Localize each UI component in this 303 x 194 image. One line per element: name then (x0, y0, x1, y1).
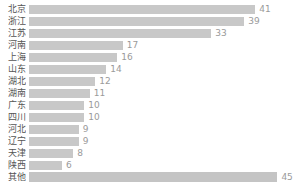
value-label: 9 (83, 124, 89, 134)
bar-track: 41 (29, 3, 303, 15)
chart-row: 浙江39 (0, 15, 303, 27)
category-label: 陕西 (0, 160, 26, 170)
bar-track: 11 (29, 87, 303, 99)
chart-row: 湖北12 (0, 75, 303, 87)
chart-row: 河北9 (0, 123, 303, 135)
bar-track: 17 (29, 39, 303, 51)
value-label: 6 (66, 160, 72, 170)
bar (29, 41, 123, 50)
bar-track: 12 (29, 75, 303, 87)
bar-track: 33 (29, 27, 303, 39)
chart-row: 河南17 (0, 39, 303, 51)
value-label: 11 (94, 88, 105, 98)
horizontal-bar-chart: 北京41浙江39江苏33河南17上海16山东14湖北12湖南11广东10四川10… (0, 0, 303, 194)
category-label: 其他 (0, 172, 26, 182)
value-label: 17 (127, 40, 138, 50)
chart-row: 北京41 (0, 3, 303, 15)
bar-track: 16 (29, 51, 303, 63)
bar (29, 101, 84, 110)
category-label: 天津 (0, 148, 26, 158)
chart-row: 辽宁9 (0, 135, 303, 147)
value-label: 41 (259, 4, 270, 14)
bar-track: 39 (29, 15, 303, 27)
category-label: 四川 (0, 112, 26, 122)
category-label: 河北 (0, 124, 26, 134)
value-label: 10 (88, 100, 99, 110)
category-label: 山东 (0, 64, 26, 74)
chart-row: 江苏33 (0, 27, 303, 39)
value-label: 9 (83, 136, 89, 146)
bar-track: 45 (29, 171, 303, 183)
value-label: 8 (77, 148, 83, 158)
chart-row: 陕西6 (0, 159, 303, 171)
category-label: 河南 (0, 40, 26, 50)
chart-row: 四川10 (0, 111, 303, 123)
chart-row: 其他45 (0, 171, 303, 183)
bar-track: 9 (29, 135, 303, 147)
value-label: 16 (121, 52, 132, 62)
chart-row: 广东10 (0, 99, 303, 111)
bar (29, 125, 79, 134)
value-label: 45 (281, 172, 292, 182)
category-label: 北京 (0, 4, 26, 14)
value-label: 12 (99, 76, 110, 86)
bar-track: 10 (29, 111, 303, 123)
bar (29, 29, 211, 38)
chart-row: 山东14 (0, 63, 303, 75)
bar (29, 5, 255, 14)
bar (29, 172, 277, 182)
bar (29, 137, 79, 146)
bar (29, 149, 73, 158)
chart-row: 天津8 (0, 147, 303, 159)
bar-track: 8 (29, 147, 303, 159)
bar-track: 14 (29, 63, 303, 75)
bar (29, 77, 95, 86)
bar (29, 65, 106, 74)
bar (29, 17, 244, 26)
category-label: 江苏 (0, 28, 26, 38)
value-label: 39 (248, 16, 259, 26)
category-label: 辽宁 (0, 136, 26, 146)
category-label: 浙江 (0, 16, 26, 26)
category-label: 湖南 (0, 88, 26, 98)
chart-row: 上海16 (0, 51, 303, 63)
bar-track: 6 (29, 159, 303, 171)
bar-track: 9 (29, 123, 303, 135)
bar (29, 53, 117, 62)
bar (29, 113, 84, 122)
bar-track: 10 (29, 99, 303, 111)
value-label: 14 (110, 64, 121, 74)
value-label: 10 (88, 112, 99, 122)
bar (29, 161, 62, 170)
category-label: 湖北 (0, 76, 26, 86)
bar (29, 89, 90, 98)
chart-row: 湖南11 (0, 87, 303, 99)
value-label: 33 (215, 28, 226, 38)
category-label: 广东 (0, 100, 26, 110)
category-label: 上海 (0, 52, 26, 62)
